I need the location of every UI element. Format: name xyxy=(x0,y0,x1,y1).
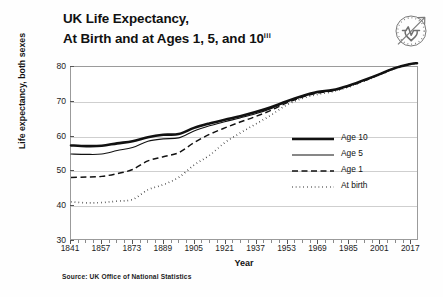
x-tick-mark-minor xyxy=(248,240,249,243)
y-tick-mark xyxy=(70,66,74,67)
chart-title: UK Life Expectancy, At Birth and at Ages… xyxy=(63,10,363,47)
x-tick-mark xyxy=(410,240,411,244)
legend-swatch xyxy=(291,179,335,191)
legend-swatch xyxy=(291,131,335,143)
x-tick-mark xyxy=(317,240,318,244)
x-tick-label: 1889 xyxy=(153,243,172,253)
x-tick-mark-minor xyxy=(372,240,373,243)
x-tick-mark-minor xyxy=(155,240,156,243)
x-tick-mark-minor xyxy=(201,240,202,243)
legend-item-age-10[interactable]: Age 10 xyxy=(291,129,411,145)
x-tick-mark-minor xyxy=(116,240,117,243)
legend-label: Age 10 xyxy=(341,132,368,142)
x-tick-label: 1857 xyxy=(92,243,111,253)
x-tick-label: 1969 xyxy=(308,243,327,253)
chart-title-line-2: At Birth and at Ages 1, 5, and 10iii xyxy=(63,27,363,47)
legend-label: At birth xyxy=(341,180,368,190)
x-tick-mark xyxy=(194,240,195,244)
x-tick-mark-minor xyxy=(364,240,365,243)
x-tick-mark-minor xyxy=(78,240,79,243)
x-tick-mark-minor xyxy=(356,240,357,243)
x-tick-mark-minor xyxy=(178,240,179,243)
x-tick-mark xyxy=(225,240,226,244)
x-tick-mark-minor xyxy=(232,240,233,243)
x-tick-mark-minor xyxy=(403,240,404,243)
x-tick-mark xyxy=(163,240,164,244)
x-tick-mark-minor xyxy=(186,240,187,243)
chart-title-line-1: UK Life Expectancy, xyxy=(63,10,363,27)
x-tick-mark-minor xyxy=(271,240,272,243)
x-tick-mark-minor xyxy=(109,240,110,243)
legend-label: Age 5 xyxy=(341,148,363,158)
x-tick-mark-minor xyxy=(395,240,396,243)
x-tick-mark xyxy=(379,240,380,244)
x-axis-label: Year xyxy=(70,258,418,268)
x-tick-mark xyxy=(101,240,102,244)
x-tick-mark-minor xyxy=(302,240,303,243)
x-tick-mark-minor xyxy=(240,240,241,243)
x-tick-label: 1905 xyxy=(184,243,203,253)
x-tick-mark xyxy=(287,240,288,244)
y-tick-mark xyxy=(70,136,74,137)
y-tick-mark xyxy=(70,205,74,206)
x-tick-mark xyxy=(70,240,71,244)
x-tick-label: 1937 xyxy=(246,243,265,253)
y-tick-label: 80 xyxy=(26,61,66,71)
x-tick-mark xyxy=(348,240,349,244)
legend-item-age-5[interactable]: Age 5 xyxy=(291,145,411,161)
x-axis-ticks: 1841185718731889190519211937195319691985… xyxy=(70,243,418,259)
x-tick-mark-minor xyxy=(217,240,218,243)
x-tick-mark-minor xyxy=(279,240,280,243)
x-tick-mark-minor xyxy=(341,240,342,243)
legend-item-age-1[interactable]: Age 1 xyxy=(291,161,411,177)
y-axis-ticks: 304050607080 xyxy=(22,66,66,240)
chart-title-line-2-text: At Birth and at Ages 1, 5, and 10 xyxy=(63,31,264,46)
x-tick-label: 1873 xyxy=(123,243,142,253)
x-tick-label: 1953 xyxy=(277,243,296,253)
y-tick-label: 70 xyxy=(26,96,66,106)
x-tick-label: 1921 xyxy=(215,243,234,253)
legend-label: Age 1 xyxy=(341,164,363,174)
legend-item-at-birth[interactable]: At birth xyxy=(291,177,411,193)
y-tick-label: 50 xyxy=(26,165,66,175)
x-tick-mark-minor xyxy=(325,240,326,243)
x-tick-mark-minor xyxy=(124,240,125,243)
x-tick-label: 2001 xyxy=(370,243,389,253)
x-tick-mark-minor xyxy=(140,240,141,243)
x-tick-mark xyxy=(256,240,257,244)
chart-title-superscript: iii xyxy=(264,31,271,40)
chart-legend: Age 10Age 5Age 1At birth xyxy=(291,129,411,193)
y-tick-label: 40 xyxy=(26,200,66,210)
x-tick-mark-minor xyxy=(310,240,311,243)
x-tick-label: 2017 xyxy=(401,243,420,253)
x-tick-label: 1985 xyxy=(339,243,358,253)
x-tick-mark-minor xyxy=(387,240,388,243)
x-tick-mark-minor xyxy=(263,240,264,243)
y-tick-mark xyxy=(70,101,74,102)
clock-heartbeat-arrow-icon xyxy=(391,9,433,51)
x-tick-mark-minor xyxy=(147,240,148,243)
x-tick-mark xyxy=(132,240,133,244)
x-tick-mark-minor xyxy=(209,240,210,243)
x-tick-label: 1841 xyxy=(61,243,80,253)
legend-swatch xyxy=(291,147,335,159)
x-tick-mark-minor xyxy=(171,240,172,243)
x-tick-mark-minor xyxy=(294,240,295,243)
x-tick-mark-minor xyxy=(93,240,94,243)
y-tick-mark xyxy=(70,170,74,171)
y-tick-label: 60 xyxy=(26,131,66,141)
legend-swatch xyxy=(291,163,335,175)
chart-figure: UK Life Expectancy, At Birth and at Ages… xyxy=(0,0,443,297)
x-tick-mark-minor xyxy=(85,240,86,243)
source-note: Source: UK Office of National Statistics xyxy=(62,273,191,280)
x-tick-mark-minor xyxy=(333,240,334,243)
